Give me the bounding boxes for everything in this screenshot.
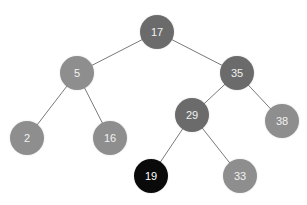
tree-node-5: 5 <box>60 56 94 90</box>
node-label: 5 <box>74 67 80 79</box>
node-label: 33 <box>234 170 246 182</box>
tree-node-29: 29 <box>175 98 209 132</box>
tree-node-33: 33 <box>223 159 257 193</box>
node-label: 16 <box>104 132 116 144</box>
tree-node-38: 38 <box>265 104 299 138</box>
node-label: 29 <box>186 109 198 121</box>
tree-node-17: 17 <box>140 15 174 49</box>
node-label: 38 <box>276 115 288 127</box>
node-label: 35 <box>231 67 243 79</box>
tree-node-16: 16 <box>93 121 127 155</box>
tree-node-35: 35 <box>220 56 254 90</box>
node-label: 19 <box>145 170 157 182</box>
node-label: 2 <box>24 132 30 144</box>
node-label: 17 <box>151 26 163 38</box>
tree-node-2: 2 <box>10 121 44 155</box>
tree-node-19: 19 <box>134 159 168 193</box>
